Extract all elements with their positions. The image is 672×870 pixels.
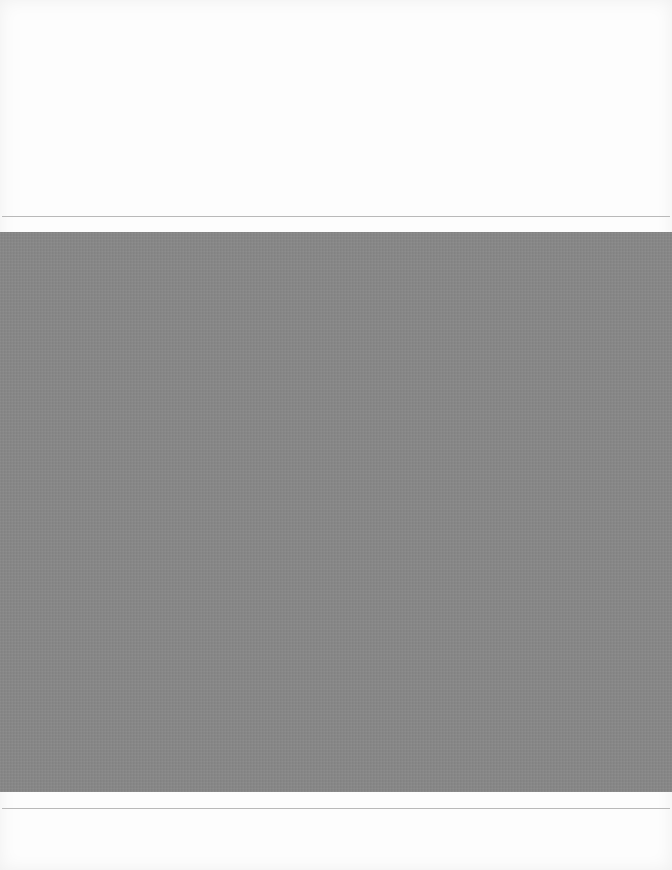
gray-image-block — [0, 232, 672, 792]
bottom-margin-area — [0, 810, 672, 870]
top-margin-area — [0, 0, 672, 215]
bottom-rule-divider — [2, 808, 670, 809]
document-page — [0, 0, 672, 870]
top-rule-divider — [2, 216, 670, 217]
